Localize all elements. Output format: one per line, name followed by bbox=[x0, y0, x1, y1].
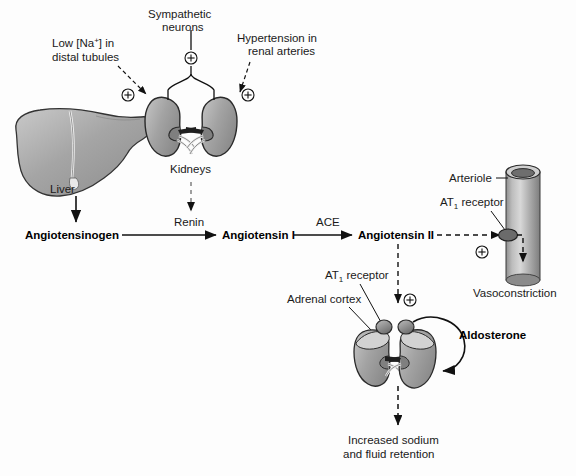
at1-receptor-bottom-leader-line bbox=[360, 284, 382, 324]
kidney-adrenal-left-illustration bbox=[354, 320, 404, 386]
at1-receptor-top-leader-line bbox=[491, 211, 505, 230]
retention-label-line1: Increased sodium bbox=[348, 434, 439, 446]
plus-icon-low-sodium bbox=[122, 89, 134, 101]
adrenal-cortex-label: Adrenal cortex bbox=[287, 293, 361, 305]
arteriole-label: Arteriole bbox=[449, 172, 492, 184]
low-sodium-label-line2: distal tubules bbox=[52, 51, 119, 63]
sympathetic-neurons-label-line1: Sympathetic bbox=[148, 8, 212, 20]
hypertension-label-line2: renal arteries bbox=[248, 45, 315, 57]
ace-label: ACE bbox=[316, 216, 340, 228]
low-sodium-pointer bbox=[118, 66, 146, 94]
liver-illustration bbox=[16, 109, 153, 196]
liver-label: Liver bbox=[50, 183, 75, 195]
angiotensinogen-label: Angiotensinogen bbox=[25, 229, 119, 241]
renin-label: Renin bbox=[174, 216, 204, 228]
angiotensin-1-label: Angiotensin I bbox=[222, 229, 295, 241]
adrenal-cortex-leader-line bbox=[349, 307, 372, 331]
at1-receptor-top-marker bbox=[499, 229, 518, 241]
raas-diagram-canvas: Liver Low [Na+] in distal tubules Sympat… bbox=[0, 0, 576, 476]
sympathetic-neuron-lines bbox=[168, 30, 214, 100]
kidney-right-illustration bbox=[186, 97, 237, 156]
at1-receptor-label-top: AT1 receptor bbox=[440, 196, 504, 211]
retention-label-line2: and fluid retention bbox=[343, 448, 434, 460]
sympathetic-neurons-label-line2: neurons bbox=[162, 21, 204, 33]
plus-icon-vasoconstriction bbox=[476, 246, 488, 258]
hypertension-pointer bbox=[240, 62, 250, 92]
at1-receptor-label-bottom: AT1 receptor bbox=[325, 269, 389, 284]
vasoconstriction-label: Vasoconstriction bbox=[473, 287, 557, 299]
aldosterone-label: Aldosterone bbox=[459, 329, 526, 341]
plus-icon-sympathetic bbox=[185, 52, 197, 64]
plus-icon-aldosterone bbox=[404, 294, 416, 306]
plus-icon-hypertension bbox=[242, 89, 254, 101]
arteriole-illustration bbox=[506, 165, 540, 286]
hypertension-label-line1: Hypertension in bbox=[237, 32, 317, 44]
low-sodium-label-line1: Low [Na+] in bbox=[52, 36, 114, 49]
kidney-adrenal-right-illustration bbox=[385, 320, 436, 388]
angiotensin-2-label: Angiotensin II bbox=[358, 229, 434, 241]
kidneys-label: Kidneys bbox=[170, 163, 211, 175]
